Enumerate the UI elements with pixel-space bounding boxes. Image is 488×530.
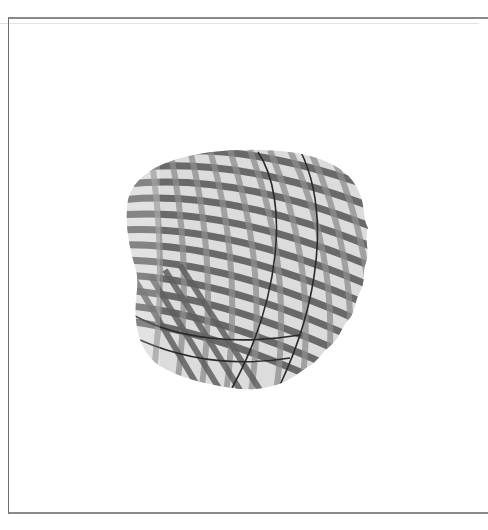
shell-texture (120, 140, 380, 410)
